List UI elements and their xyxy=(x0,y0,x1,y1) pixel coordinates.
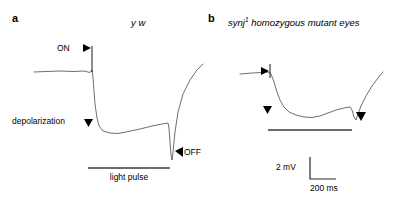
depolarization-arrowhead-panel-b xyxy=(263,106,272,114)
light-pulse-label-panel-a: light pulse xyxy=(88,173,170,182)
erg-vector-layer xyxy=(0,0,403,202)
on-arrowhead-panel-a xyxy=(83,44,91,52)
scale-bar-time-label: 200 ms xyxy=(310,184,338,193)
scale-bar-voltage-label: 2 mV xyxy=(276,163,296,172)
on-label-panel-a: ON xyxy=(57,44,70,53)
erg-figure: a b y w synj1 homozygous mutant eyes xyxy=(0,0,403,202)
off-label-panel-a: OFF xyxy=(184,148,201,157)
scale-bar-glyph xyxy=(310,157,336,179)
erg-trace-panel-a xyxy=(34,64,203,160)
on-arrowhead-panel-b xyxy=(261,67,269,75)
off-arrowhead-panel-a xyxy=(175,147,183,157)
depolarization-arrowhead-panel-a xyxy=(84,119,93,127)
depolarization-label-panel-a: depolarization xyxy=(12,117,65,126)
